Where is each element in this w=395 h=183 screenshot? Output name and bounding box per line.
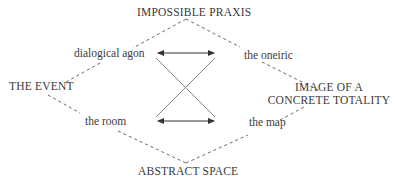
edge-top-right-dashed: [186, 19, 240, 47]
label-the-map: the map: [249, 116, 286, 129]
label-the-oneiric: the oneiric: [244, 49, 293, 62]
label-the-room: the room: [85, 115, 126, 128]
node-image-line1: IMAGE OF A: [263, 81, 395, 94]
edge-bottom-left-dashed: [48, 95, 80, 113]
node-the-event: THE EVENT: [9, 80, 74, 93]
node-image-of-a-concrete-totality: IMAGE OF A CONCRETE TOTALITY: [263, 81, 395, 107]
edge-bottom-left-dashed-2: [118, 131, 186, 163]
edge-bottom-right-dashed: [186, 135, 248, 163]
label-dialogical-agon: dialogical agon: [74, 47, 145, 60]
node-impossible-praxis: IMPOSSIBLE PRAXIS: [137, 6, 251, 19]
edge-top-left-dashed: [133, 19, 186, 48]
node-image-line2: CONCRETE TOTALITY: [263, 94, 395, 107]
node-abstract-space: ABSTRACT SPACE: [138, 165, 238, 178]
